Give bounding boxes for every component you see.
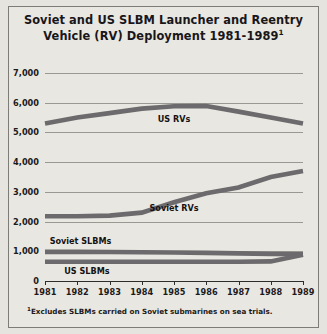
series-label-soviet-slbms: Soviet SLBMs: [50, 236, 112, 246]
series-label-us-rvs: US RVs: [158, 114, 191, 124]
title-footnote-marker: 1: [279, 28, 284, 37]
x-axis-tick-1983: [110, 281, 111, 285]
y-axis-label-7000: 7,000: [13, 68, 39, 78]
chart-title: Soviet and US SLBM Launcher and Reentry …: [16, 13, 311, 44]
chart-title-line-2-text: Vehicle (RV) Deployment 1981-1989: [43, 29, 278, 43]
x-axis-label-1985: 1985: [163, 287, 186, 297]
x-axis-label-1986: 1986: [195, 287, 218, 297]
x-axis-tick-1981: [45, 281, 46, 285]
plot-area: 01,0002,0003,0004,0005,0006,0007,000 198…: [45, 73, 303, 281]
series-line-soviet-slbms: [45, 252, 303, 254]
y-axis-label-0: 0: [33, 276, 39, 286]
series-lines: [45, 73, 303, 281]
x-axis-tick-1982: [77, 281, 78, 285]
x-axis-tick-1989: [303, 281, 304, 285]
y-axis-label-6000: 6,000: [13, 98, 39, 108]
chart-figure: Soviet and US SLBM Launcher and Reentry …: [0, 0, 327, 334]
series-label-us-slbms: US SLBMs: [64, 266, 109, 276]
x-axis-tick-1984: [142, 281, 143, 285]
x-axis-label-1987: 1987: [227, 287, 250, 297]
x-axis-tick-1985: [174, 281, 175, 285]
x-axis-label-1982: 1982: [66, 287, 89, 297]
y-axis-label-5000: 5,000: [13, 127, 39, 137]
x-axis-label-1984: 1984: [130, 287, 153, 297]
chart-title-line-1: Soviet and US SLBM Launcher and Reentry: [16, 13, 311, 29]
x-axis-label-1983: 1983: [98, 287, 121, 297]
x-axis-tick-1986: [206, 281, 207, 285]
x-axis-label-1989: 1989: [292, 287, 315, 297]
footnote-text: Excludes SLBMs carried on Soviet submari…: [31, 307, 273, 316]
x-axis-label-1981: 1981: [34, 287, 57, 297]
x-axis-tick-1988: [271, 281, 272, 285]
y-axis-label-3000: 3,000: [13, 187, 39, 197]
y-axis-label-1000: 1,000: [13, 246, 39, 256]
x-axis-tick-1987: [239, 281, 240, 285]
chart-title-line-2: Vehicle (RV) Deployment 1981-19891: [16, 29, 311, 45]
y-axis-label-4000: 4,000: [13, 157, 39, 167]
y-axis-label-2000: 2,000: [13, 217, 39, 227]
x-axis-label-1988: 1988: [259, 287, 282, 297]
series-label-soviet-rvs: Soviet RVs: [150, 203, 199, 213]
chart-footnote: 1Excludes SLBMs carried on Soviet submar…: [27, 307, 273, 316]
